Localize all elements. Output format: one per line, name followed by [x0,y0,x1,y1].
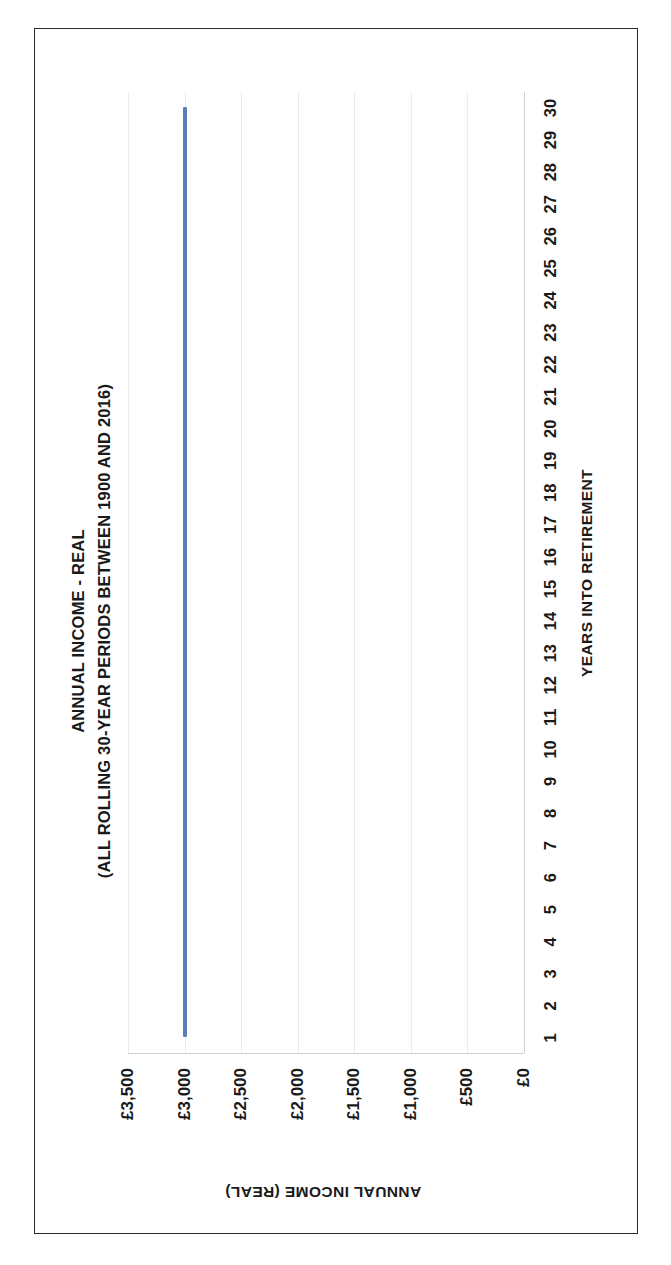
x-axis-tick-label: 21 [541,387,560,405]
y-axis-tick-label: £3,500 [118,1068,138,1120]
x-axis-tick-label: 27 [541,195,560,213]
x-axis-tick-label: 26 [541,227,560,245]
x-axis-tick-label: 9 [541,777,560,786]
plot-wrapper [128,92,524,1054]
series-segment [183,684,187,717]
x-axis-tick-label: 24 [541,291,560,309]
x-axis-tick-label: 3 [541,969,560,978]
chart-title-line-1: ANNUAL INCOME - REAL [69,529,87,733]
series-segment [183,556,187,589]
x-axis-tick-label: 25 [541,259,560,277]
series-segment [183,940,187,973]
x-axis-tick-label: 11 [541,709,560,726]
y-axis-tick-label: £1,500 [344,1068,364,1120]
series-segment [183,299,187,332]
series-segment [183,491,187,524]
x-axis-tick-label: 22 [541,355,560,373]
chart-title-line-2: (ALL ROLLING 30-YEAR PERIODS BETWEEN 190… [92,56,118,1206]
x-axis-tick-label: 18 [541,484,560,502]
series-segment [183,523,187,556]
y-axis-title: ANNUAL INCOME (REAL) [113,1183,533,1201]
series-segment [183,459,187,492]
y-axis-tick-label: £0 [514,1068,534,1087]
y-axis-tick-label: £2,500 [231,1068,251,1120]
series-segment [183,139,187,172]
x-axis-tick-label: 8 [541,809,560,818]
series-segment [183,588,187,621]
x-axis-title: YEARS INTO RETIREMENT [578,92,596,1054]
series-segment [183,780,187,813]
y-axis-tick-label: £2,000 [288,1068,308,1120]
series-segment [183,331,187,364]
y-axis: £0£500£1,000£1,500£2,000£2,500£3,000£3,5… [128,1060,524,1206]
series-segment [183,748,187,781]
series-segment [183,1004,187,1037]
series-segment [183,844,187,877]
series-segment [183,107,187,140]
x-axis: 1234567891011121314151617181920212223242… [532,92,560,1054]
y-axis-tick-label: £500 [457,1068,477,1106]
x-axis-tick-label: 23 [541,323,560,341]
rotated-chart-container: ANNUAL INCOME - REAL (ALL ROLLING 30-YEA… [56,56,616,1206]
x-axis-tick-label: 13 [541,644,560,662]
x-axis-tick-label: 6 [541,873,560,882]
x-axis-tick-label: 29 [541,131,560,149]
series-segment [183,876,187,909]
x-axis-tick-label: 1 [541,1033,560,1042]
x-axis-tick-label: 7 [541,841,560,850]
series-segment [183,716,187,749]
series-segment [183,395,187,428]
x-axis-tick-label: 4 [541,937,560,946]
x-axis-tick-label: 5 [541,905,560,914]
chart-title-block: ANNUAL INCOME - REAL (ALL ROLLING 30-YEA… [66,56,117,1206]
x-axis-tick-label: 28 [541,163,560,181]
series-segment [183,235,187,268]
series-segment [183,812,187,845]
series-segment [183,620,187,653]
scanned-page: ANNUAL INCOME - REAL (ALL ROLLING 30-YEA… [0,0,671,1265]
x-axis-tick-label: 17 [541,516,560,534]
series-segment [183,363,187,396]
x-axis-tick-label: 10 [541,740,560,758]
gridline [524,92,525,1053]
x-axis-tick-label: 19 [541,452,560,470]
x-axis-tick-label: 14 [541,612,560,630]
series-segment [183,908,187,941]
series-segment [183,203,187,236]
x-axis-tick-label: 15 [541,580,560,598]
x-axis-tick-label: 30 [541,99,560,117]
plot-area [128,92,524,1054]
series-segment [183,972,187,1005]
series-segment [183,171,187,204]
x-axis-tick-label: 20 [541,420,560,438]
series-segment [183,427,187,460]
x-axis-tick-label: 16 [541,548,560,566]
series-segment [183,652,187,685]
x-axis-tick-label: 12 [541,676,560,694]
y-axis-tick-label: £1,000 [401,1068,421,1120]
chart-canvas: ANNUAL INCOME - REAL (ALL ROLLING 30-YEA… [56,56,616,1206]
x-axis-tick-label: 2 [541,1001,560,1010]
page-border-frame: ANNUAL INCOME - REAL (ALL ROLLING 30-YEA… [34,28,638,1234]
series-segment [183,267,187,300]
series-layer [128,92,524,1053]
y-axis-tick-label: £3,000 [175,1068,195,1120]
